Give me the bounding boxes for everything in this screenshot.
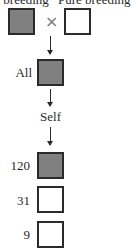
arrow-down-icon	[50, 89, 51, 106]
f2-count-grid: 31	[4, 194, 30, 207]
f1-label: All	[10, 66, 32, 79]
arrow-down-icon	[50, 36, 51, 54]
f1-gray-square	[37, 59, 64, 86]
f2-white-square	[37, 221, 64, 248]
f2-count-gray: 120	[4, 159, 30, 172]
header-left-label: True breeding	[0, 0, 49, 6]
parent-gray-square	[8, 8, 35, 35]
arrow-down-icon	[50, 127, 51, 145]
self-label: Self	[35, 110, 66, 123]
f2-gray-square	[37, 152, 64, 179]
parent-grid-square	[64, 8, 91, 35]
f2-count-white: 9	[4, 228, 30, 241]
cross-symbol: ×	[45, 14, 58, 30]
f2-grid-square	[37, 186, 64, 213]
header-right-label: Pure breeding	[58, 0, 131, 6]
